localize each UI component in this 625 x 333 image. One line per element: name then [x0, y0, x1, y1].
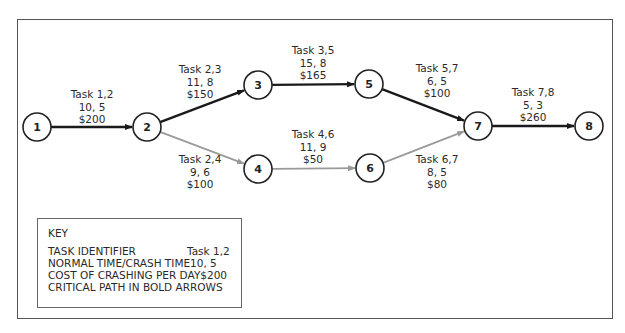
- node-6: 6: [356, 154, 384, 182]
- node-1: 1: [23, 113, 51, 141]
- node-5: 5: [355, 70, 383, 98]
- svg-text:4: 4: [254, 163, 262, 176]
- key-legend: KEY TASK IDENTIFIER Task 1,2 NORMAL TIME…: [37, 218, 242, 308]
- task-label-7-8: Task 7,8 5, 3 $260: [493, 86, 573, 124]
- svg-text:5: 5: [365, 78, 373, 91]
- key-row-crash-cost: COST OF CRASHING PER DAY $200: [48, 269, 231, 281]
- key-row-normal-crash-time: NORMAL TIME/CRASH TIME 10, 5: [48, 257, 231, 269]
- node-2: 2: [133, 113, 161, 141]
- svg-text:3: 3: [254, 79, 262, 92]
- svg-text:1: 1: [33, 121, 41, 134]
- task-label-2-3: Task 2,3 11, 8 $150: [160, 63, 240, 101]
- key-row-task-identifier: TASK IDENTIFIER Task 1,2: [48, 245, 231, 257]
- arrow-task-4-6: [272, 168, 355, 169]
- svg-text:6: 6: [366, 162, 374, 175]
- key-row-critical-path: CRITICAL PATH IN BOLD ARROWS: [48, 281, 231, 293]
- task-label-1-2: Task 1,2 10, 5 $200: [52, 88, 132, 126]
- arrow-task-3-5: [272, 84, 354, 85]
- task-label-4-6: Task 4,6 11, 9 $50: [273, 128, 353, 166]
- task-label-2-4: Task 2,4 9, 6 $100: [160, 153, 240, 191]
- svg-text:2: 2: [143, 121, 151, 134]
- node-7: 7: [464, 112, 492, 140]
- task-label-5-7: Task 5,7 6, 5 $100: [397, 62, 477, 100]
- node-8: 8: [575, 112, 603, 140]
- node-3: 3: [244, 71, 272, 99]
- task-label-3-5: Task 3,5 15, 8 $165: [273, 44, 353, 82]
- task-label-6-7: Task 6,7 8, 5 $80: [397, 153, 477, 191]
- svg-text:8: 8: [585, 120, 593, 133]
- key-title: KEY: [48, 227, 231, 239]
- svg-text:7: 7: [474, 120, 482, 133]
- node-4: 4: [244, 155, 272, 183]
